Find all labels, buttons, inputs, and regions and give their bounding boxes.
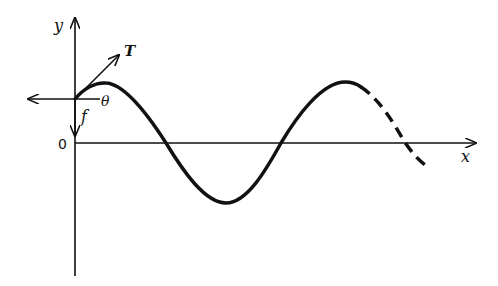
- y-axis-label: y: [53, 16, 64, 35]
- wave-diagram: y x 0 T θ f: [0, 0, 498, 286]
- origin-label: 0: [58, 136, 67, 152]
- force-label: f: [80, 107, 90, 126]
- angle-label: θ: [101, 93, 110, 109]
- wave-dashed: [361, 87, 427, 166]
- tension-label: T: [124, 42, 137, 60]
- x-axis-label: x: [461, 147, 470, 166]
